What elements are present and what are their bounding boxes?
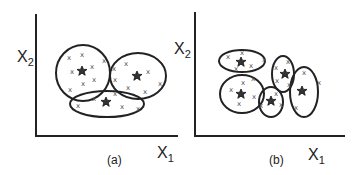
svg-text:x: x [124, 60, 128, 68]
svg-text:x: x [112, 65, 116, 73]
svg-text:x: x [279, 101, 283, 109]
svg-text:x: x [80, 51, 84, 59]
svg-text:x: x [262, 56, 266, 64]
svg-text:x: x [81, 80, 85, 88]
svg-text:x: x [136, 105, 140, 113]
centroid-star-icon [132, 71, 142, 80]
caption-b: (b) [269, 153, 284, 167]
y-axis-label-a: X2 [17, 48, 34, 68]
svg-text:x: x [126, 84, 130, 92]
svg-text:x: x [67, 54, 71, 62]
svg-text:x: x [120, 103, 124, 111]
centroid-star-icon [297, 86, 307, 95]
panel-b: X2 X1 (b) xxx xx xxx xx xxxx xxx xxx [174, 12, 345, 167]
svg-text:x: x [286, 58, 290, 66]
panel-a: X2 X1 (a) xxx xxx xxx xxx xxx xxx xx [17, 14, 178, 167]
centroid-star-icon [280, 69, 290, 78]
svg-text:x: x [302, 69, 306, 77]
centroid-star-icon [236, 89, 246, 98]
svg-text:x: x [251, 75, 255, 83]
svg-text:x: x [146, 68, 150, 76]
svg-text:x: x [237, 100, 241, 108]
data-points-a: xxx xxx xxx xxx xxx xxx xx [67, 51, 162, 113]
svg-text:x: x [70, 68, 74, 76]
svg-text:x: x [92, 76, 96, 84]
centroid-star-icon [101, 97, 111, 106]
y-axis-label-b: X2 [174, 40, 191, 60]
x-axis-label-a: X1 [157, 144, 174, 164]
svg-text:x: x [317, 79, 321, 87]
svg-text:x: x [158, 80, 162, 88]
svg-text:x: x [113, 76, 117, 84]
svg-text:x: x [76, 102, 80, 110]
svg-text:x: x [275, 77, 279, 85]
svg-text:x: x [226, 53, 230, 61]
svg-text:x: x [287, 81, 291, 89]
svg-text:x: x [249, 62, 253, 70]
svg-text:x: x [274, 90, 278, 98]
x-axis-label-b: X1 [308, 146, 325, 166]
svg-text:x: x [259, 102, 263, 110]
svg-text:x: x [274, 64, 278, 72]
caption-a: (a) [107, 153, 122, 167]
svg-text:x: x [240, 49, 244, 57]
svg-text:x: x [241, 79, 245, 87]
clustering-diagram: X2 X1 (a) xxx xxx xxx xxx xxx xxx xx X2 … [0, 0, 364, 175]
svg-text:x: x [252, 93, 256, 101]
svg-text:x: x [294, 104, 298, 112]
svg-text:x: x [68, 86, 72, 94]
svg-text:x: x [90, 63, 94, 71]
svg-text:x: x [229, 86, 233, 94]
svg-text:x: x [113, 90, 117, 98]
centroid-star-icon [77, 66, 87, 75]
svg-text:x: x [92, 95, 96, 103]
svg-text:x: x [143, 88, 147, 96]
svg-text:x: x [102, 57, 106, 65]
